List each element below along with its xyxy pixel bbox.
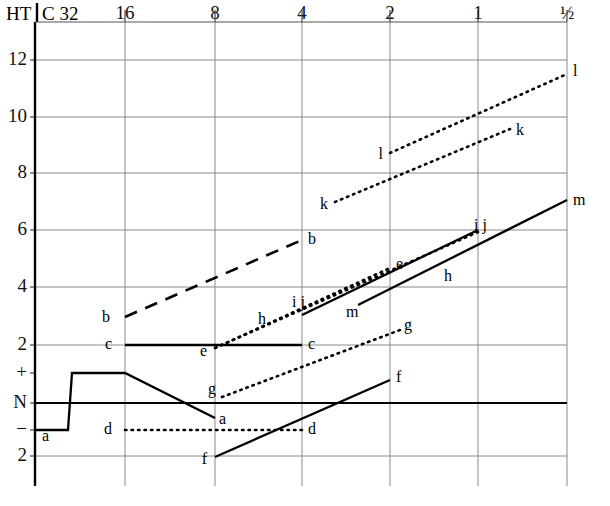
curve-label-f: f [396,368,401,386]
series-line-m [358,200,567,305]
curve-label-b: b [88,308,110,326]
curve-label-c: c [308,335,315,353]
chart-root: HT C 32 32168421½ 12108642+N−2 bbccaadde… [0,0,610,506]
curve-label-h: h [444,267,452,285]
curve-label-ij: i j [474,216,487,234]
curve-label-a: a [219,410,226,428]
horizontal-gridlines [35,60,567,456]
curve-label-m: m [573,191,585,209]
curve-label-m: m [346,303,358,321]
series-line-b [125,240,302,317]
curve-label-f: f [185,450,207,468]
curve-label-d: d [308,420,316,438]
curve-label-b: b [308,230,316,248]
curve-label-l: l [573,62,577,80]
curve-label-d: d [90,420,112,438]
series-line-k [335,129,510,202]
curve-label-k: k [306,195,328,213]
curve-label-g: g [194,380,216,398]
curve-label-e: e [185,342,207,360]
curve-label-ij: i j [292,293,305,311]
curve-label-h: h [258,310,266,328]
curve-label-a: a [42,427,49,445]
curve-label-c: c [90,335,112,353]
curve-label-e: e [396,255,403,273]
data-series-group [35,74,567,457]
curve-label-k: k [516,121,524,139]
curve-label-l: l [361,145,383,163]
vertical-gridlines [125,22,567,486]
curve-label-g: g [404,316,412,334]
